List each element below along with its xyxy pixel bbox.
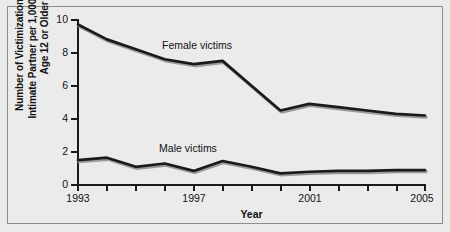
- series-label-female: Female victims: [162, 39, 232, 51]
- series-male-line: [78, 158, 425, 174]
- chart-figure: Number of Victimizations by an Intimate …: [0, 0, 450, 232]
- series-female-shadow: [79, 26, 426, 117]
- series-label-male: Male victims: [159, 142, 217, 154]
- chart-plot-surface: Number of Victimizations by an Intimate …: [0, 0, 450, 232]
- chart-series-canvas: [0, 0, 450, 232]
- series-female-line: [78, 24, 425, 115]
